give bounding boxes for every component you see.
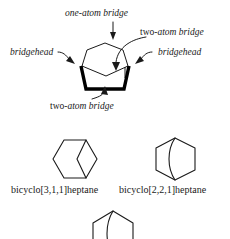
structure-bottom-clipped — [0, 0, 230, 239]
internal-bridge-bottom — [107, 211, 113, 239]
hexagon-ring-bottom — [93, 211, 133, 239]
figure-canvas: one-atom bridge two-atom bridge bridgehe… — [0, 0, 230, 239]
